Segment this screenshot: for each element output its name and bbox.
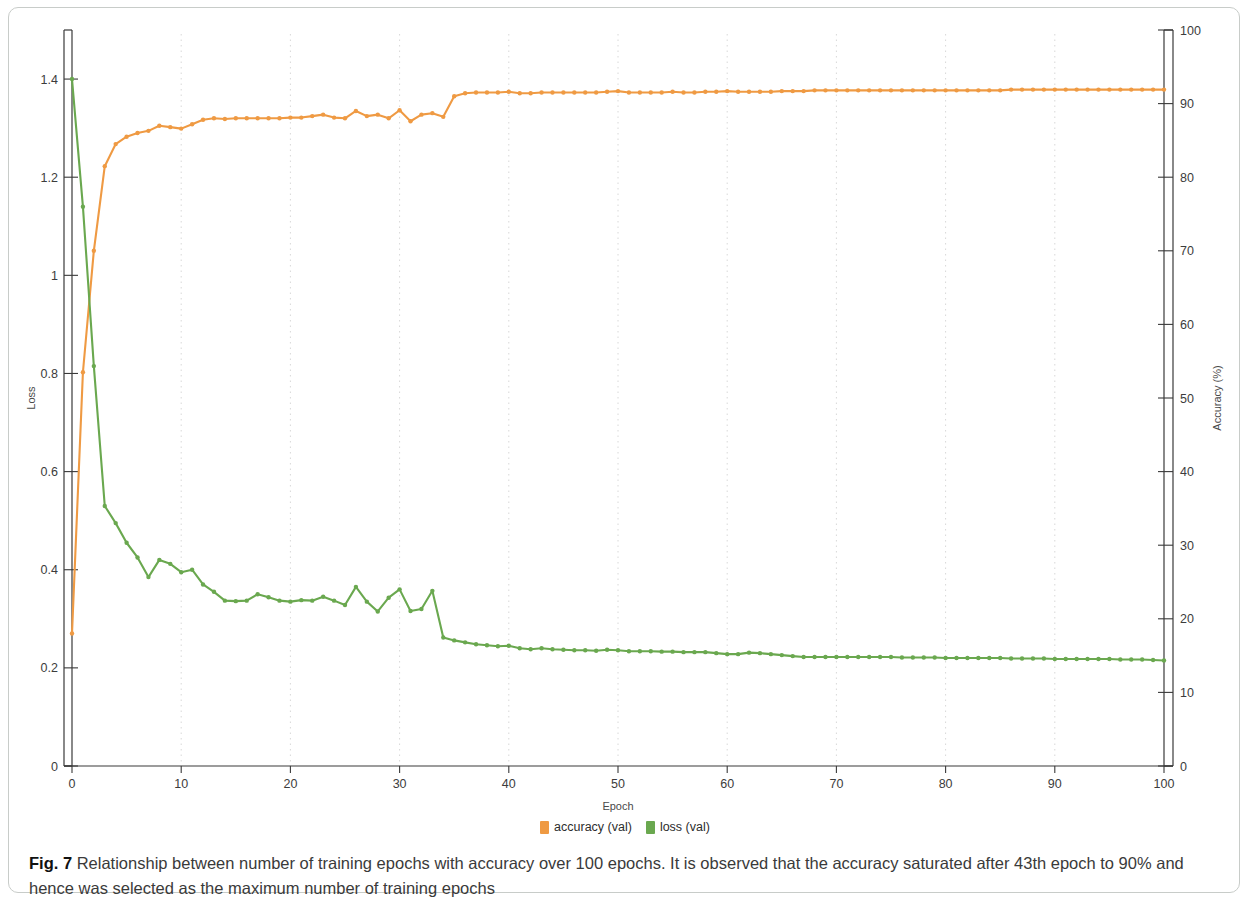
series-point-0-35 bbox=[452, 94, 456, 98]
series-point-0-82 bbox=[965, 88, 969, 92]
series-point-0-32 bbox=[419, 112, 423, 116]
series-point-0-16 bbox=[245, 116, 249, 120]
series-point-0-40 bbox=[507, 90, 511, 94]
series-point-0-86 bbox=[1009, 87, 1013, 91]
series-point-1-58 bbox=[703, 650, 707, 654]
series-point-0-10 bbox=[179, 126, 183, 130]
series-point-1-57 bbox=[692, 650, 696, 654]
series-point-0-88 bbox=[1031, 87, 1035, 91]
legend-item-accuracy[interactable]: accuracy (val) bbox=[540, 820, 632, 834]
series-point-0-93 bbox=[1085, 87, 1089, 91]
series-point-0-1 bbox=[81, 370, 85, 374]
series-point-1-54 bbox=[659, 649, 663, 653]
series-point-1-48 bbox=[594, 648, 598, 652]
series-point-1-50 bbox=[616, 648, 620, 652]
series-point-1-66 bbox=[791, 654, 795, 658]
series-point-0-13 bbox=[212, 116, 216, 120]
series-point-0-52 bbox=[638, 90, 642, 94]
series-point-0-97 bbox=[1129, 87, 1133, 91]
series-point-1-67 bbox=[801, 655, 805, 659]
y-ticklabel-right-2: 20 bbox=[1180, 612, 1194, 626]
series-point-0-27 bbox=[365, 114, 369, 118]
y-ticklabel-left-4: 0.8 bbox=[41, 367, 58, 381]
figure-caption-label: Fig. 7 bbox=[29, 854, 72, 872]
series-point-0-96 bbox=[1118, 87, 1122, 91]
series-point-0-22 bbox=[310, 114, 314, 118]
series-point-1-74 bbox=[878, 655, 882, 659]
series-point-1-71 bbox=[845, 655, 849, 659]
series-point-1-76 bbox=[900, 655, 904, 659]
series-point-0-94 bbox=[1096, 87, 1100, 91]
series-point-0-5 bbox=[124, 135, 128, 139]
y-ticklabel-left-0: 0 bbox=[51, 760, 58, 774]
series-point-1-36 bbox=[463, 640, 467, 644]
y-ticklabel-right-8: 80 bbox=[1180, 171, 1194, 185]
series-point-0-31 bbox=[408, 119, 412, 123]
series-point-1-61 bbox=[736, 652, 740, 656]
series-point-0-15 bbox=[234, 116, 238, 120]
series-point-0-69 bbox=[823, 88, 827, 92]
series-point-0-42 bbox=[528, 91, 532, 95]
series-point-1-90 bbox=[1053, 657, 1057, 661]
series-point-1-15 bbox=[234, 599, 238, 603]
series-point-1-64 bbox=[769, 652, 773, 656]
series-point-0-62 bbox=[747, 90, 751, 94]
x-ticklabel-10: 100 bbox=[1154, 777, 1175, 791]
series-point-1-42 bbox=[528, 647, 532, 651]
series-point-0-46 bbox=[572, 90, 576, 94]
series-point-0-43 bbox=[539, 90, 543, 94]
series-point-0-57 bbox=[692, 90, 696, 94]
series-point-0-85 bbox=[998, 88, 1002, 92]
legend-swatch-accuracy bbox=[540, 821, 549, 834]
series-point-0-75 bbox=[889, 88, 893, 92]
series-point-0-25 bbox=[343, 116, 347, 120]
series-point-0-99 bbox=[1151, 87, 1155, 91]
chart-legend: accuracy (val) loss (val) bbox=[9, 820, 1241, 834]
y-ticklabel-right-5: 50 bbox=[1180, 392, 1194, 406]
series-point-1-31 bbox=[408, 609, 412, 613]
series-point-0-23 bbox=[321, 112, 325, 116]
y-ticklabel-right-1: 10 bbox=[1180, 686, 1194, 700]
series-point-0-71 bbox=[845, 88, 849, 92]
y-ticklabel-left-2: 0.4 bbox=[41, 563, 58, 577]
series-point-1-39 bbox=[496, 644, 500, 648]
series-point-1-25 bbox=[343, 603, 347, 607]
chart-plot-area: 00.20.40.60.811.21.401020304050607080901… bbox=[9, 8, 1241, 818]
series-point-0-76 bbox=[900, 88, 904, 92]
series-point-1-11 bbox=[190, 568, 194, 572]
series-point-1-18 bbox=[266, 595, 270, 599]
series-point-1-1 bbox=[81, 204, 85, 208]
series-point-0-24 bbox=[332, 115, 336, 119]
x-ticklabel-7: 70 bbox=[829, 777, 843, 791]
series-point-1-52 bbox=[638, 649, 642, 653]
series-point-0-39 bbox=[496, 90, 500, 94]
y-ticklabel-left-5: 1 bbox=[51, 269, 58, 283]
series-point-1-85 bbox=[998, 656, 1002, 660]
x-ticklabel-8: 80 bbox=[939, 777, 953, 791]
series-point-1-26 bbox=[354, 585, 358, 589]
series-point-1-29 bbox=[386, 596, 390, 600]
y-ticklabel-left-7: 1.4 bbox=[41, 73, 58, 87]
series-point-0-100 bbox=[1162, 87, 1166, 91]
series-point-1-62 bbox=[747, 650, 751, 654]
series-point-1-28 bbox=[376, 609, 380, 613]
series-point-0-3 bbox=[103, 164, 107, 168]
series-point-0-60 bbox=[725, 89, 729, 93]
series-point-1-63 bbox=[758, 651, 762, 655]
series-point-0-6 bbox=[135, 131, 139, 135]
series-point-0-77 bbox=[911, 88, 915, 92]
series-point-1-70 bbox=[834, 655, 838, 659]
series-point-0-64 bbox=[769, 90, 773, 94]
series-point-1-34 bbox=[441, 635, 445, 639]
y-ticklabel-right-4: 40 bbox=[1180, 465, 1194, 479]
series-point-1-33 bbox=[430, 589, 434, 593]
series-point-1-80 bbox=[943, 656, 947, 660]
series-point-0-56 bbox=[681, 90, 685, 94]
series-point-0-29 bbox=[386, 116, 390, 120]
series-point-1-94 bbox=[1096, 657, 1100, 661]
legend-swatch-loss bbox=[646, 821, 655, 834]
series-point-0-72 bbox=[856, 88, 860, 92]
series-point-1-9 bbox=[168, 562, 172, 566]
legend-item-loss[interactable]: loss (val) bbox=[646, 820, 710, 834]
series-point-0-91 bbox=[1064, 87, 1068, 91]
